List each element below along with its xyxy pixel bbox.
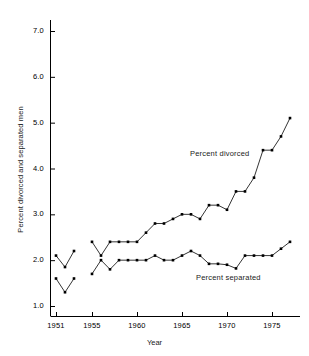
- data-point-marker: [235, 267, 238, 270]
- x-axis-title: Year: [0, 338, 309, 347]
- data-point-marker: [208, 263, 211, 266]
- data-point-marker: [55, 277, 58, 280]
- data-point-marker: [136, 241, 139, 244]
- data-point-marker: [217, 263, 220, 266]
- series-line-divorced: [92, 118, 290, 256]
- y-tick-label: 1.0: [22, 301, 44, 310]
- data-point-marker: [118, 259, 121, 262]
- data-point-marker: [172, 259, 175, 262]
- series-line-separated: [56, 279, 74, 293]
- data-point-marker: [55, 254, 58, 257]
- data-point-marker: [253, 254, 256, 257]
- data-point-marker: [163, 259, 166, 262]
- data-point-marker: [73, 277, 76, 280]
- data-point-marker: [100, 254, 103, 257]
- data-point-marker: [109, 268, 112, 271]
- data-point-marker: [73, 250, 76, 253]
- data-point-marker: [163, 222, 166, 225]
- data-point-marker: [190, 250, 193, 253]
- data-point-marker: [145, 259, 148, 262]
- data-point-marker: [280, 135, 283, 138]
- data-point-marker: [100, 259, 103, 262]
- data-point-marker: [262, 149, 265, 152]
- y-axis-ticks: [51, 32, 56, 307]
- y-tick-label: 6.0: [22, 72, 44, 81]
- y-tick-label: 5.0: [22, 118, 44, 127]
- series-lines: [56, 118, 290, 292]
- data-point-marker: [271, 149, 274, 152]
- data-point-marker: [235, 190, 238, 193]
- data-point-marker: [199, 254, 202, 257]
- data-point-marker: [127, 241, 130, 244]
- data-point-marker: [190, 213, 193, 216]
- data-point-marker: [64, 266, 67, 269]
- data-point-marker: [253, 176, 256, 179]
- data-point-marker: [91, 273, 94, 276]
- data-point-marker: [289, 241, 292, 244]
- series-line-divorced: [56, 251, 74, 267]
- series-annotation-divorced: Percent divorced: [190, 149, 249, 158]
- data-point-marker: [181, 254, 184, 257]
- y-axis-title: Percent divorced and separated men: [16, 80, 25, 260]
- x-tick-label: 1955: [77, 321, 107, 330]
- data-point-marker: [172, 218, 175, 221]
- data-point-marker: [208, 204, 211, 207]
- data-point-marker: [118, 241, 121, 244]
- y-tick-label: 3.0: [22, 209, 44, 218]
- data-point-marker: [154, 222, 157, 225]
- data-point-marker: [289, 117, 292, 120]
- axis-lines: [51, 20, 301, 317]
- data-point-marker: [64, 291, 67, 294]
- data-point-marker: [154, 254, 157, 257]
- y-tick-label: 4.0: [22, 164, 44, 173]
- data-point-marker: [226, 208, 229, 211]
- data-point-marker: [244, 190, 247, 193]
- chart-container: 1.02.03.04.05.06.07.0 195119551960196519…: [0, 0, 309, 356]
- data-point-marker: [280, 247, 283, 250]
- x-tick-label: 1970: [212, 321, 242, 330]
- x-tick-label: 1965: [167, 321, 197, 330]
- data-point-marker: [217, 204, 220, 207]
- data-point-marker: [226, 263, 229, 266]
- data-point-marker: [244, 254, 247, 257]
- data-point-marker: [109, 241, 112, 244]
- y-tick-label: 7.0: [22, 26, 44, 35]
- x-tick-label: 1975: [257, 321, 287, 330]
- x-axis-ticks: [57, 312, 273, 317]
- y-tick-label: 2.0: [22, 255, 44, 264]
- data-point-marker: [145, 231, 148, 234]
- data-point-marker: [262, 254, 265, 257]
- x-tick-label: 1951: [41, 321, 71, 330]
- data-point-marker: [127, 259, 130, 262]
- x-tick-label: 1960: [122, 321, 152, 330]
- series-line-separated: [92, 242, 290, 274]
- data-point-marker: [181, 213, 184, 216]
- data-point-marker: [271, 254, 274, 257]
- data-point-marker: [199, 218, 202, 221]
- series-markers: [55, 117, 292, 294]
- data-point-marker: [91, 241, 94, 244]
- series-annotation-separated: Percent separated: [196, 273, 261, 282]
- chart-plot-area: [0, 0, 309, 356]
- data-point-marker: [136, 259, 139, 262]
